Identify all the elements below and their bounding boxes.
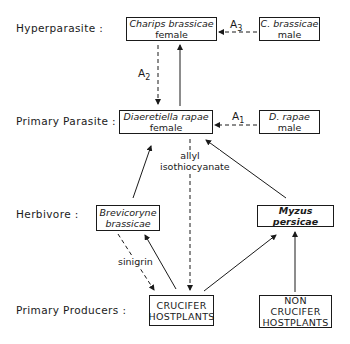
node-myzus-persicae: Myzus persicae [257, 205, 334, 227]
edge-label-a3: A3 [230, 19, 242, 34]
node-brevicoryne-brassicae: Brevicoryne brassicae [96, 205, 160, 231]
edge-crucifer-to-myzus [204, 235, 276, 291]
node-diaeretiella-male: D. rapae male [259, 110, 320, 134]
edge-label-sinigrin: sinigrin [118, 256, 153, 267]
node-charips-female: Charips brassicae female [126, 17, 217, 41]
node-crucifer-hostplants: CRUCIFER HOSTPLANTS [149, 295, 214, 326]
node-charips-male: C. brassicae male [259, 17, 320, 41]
edges [0, 0, 350, 344]
edge-label-allyl-isothiocyanate: allyl isothiocyanate [160, 150, 220, 172]
edge-label-a1: A1 [232, 111, 244, 126]
node-non-crucifer-hostplants: NON CRUCIFER HOSTPLANTS [259, 295, 332, 328]
node-diaeretiella-female: Diaeretiella rapae female [119, 110, 213, 134]
edge-label-a2: A2 [138, 68, 150, 83]
edge-brevicoryne-to-diaeretiella [133, 146, 151, 198]
